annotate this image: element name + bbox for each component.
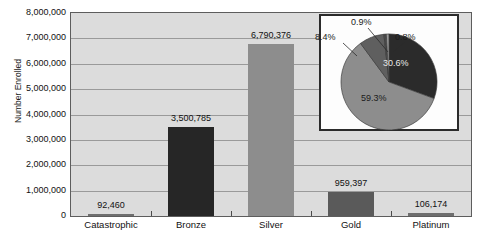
- pie-chart-inset: 30.6%59.3%8.4%0.9%0.8%: [319, 14, 459, 131]
- chart-figure: Number Enrolled 01,000,0002,000,0003,000…: [0, 0, 480, 244]
- pie-leader-lines: [321, 16, 461, 133]
- y-tick-label: 5,000,000: [8, 84, 66, 93]
- x-tick-label: Platinum: [381, 219, 480, 230]
- y-tick-label: 2,000,000: [8, 160, 66, 169]
- y-tick-label: 1,000,000: [8, 186, 66, 195]
- y-axis-tick-labels: 01,000,0002,000,0003,000,0004,000,0005,0…: [0, 0, 66, 244]
- y-tick-label: 0: [8, 211, 66, 220]
- y-tick-label: 8,000,000: [8, 8, 66, 17]
- y-tick-label: 6,000,000: [8, 59, 66, 68]
- y-tick-label: 4,000,000: [8, 110, 66, 119]
- y-tick-label: 7,000,000: [8, 33, 66, 42]
- y-tick-label: 3,000,000: [8, 135, 66, 144]
